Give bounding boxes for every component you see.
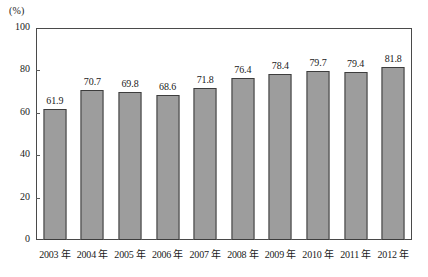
bar-value-label: 71.8	[197, 74, 214, 85]
bar-slot: 68.6	[149, 28, 187, 240]
bar[interactable]	[118, 92, 141, 240]
bar-value-label: 61.9	[46, 95, 63, 106]
bar[interactable]	[382, 67, 405, 240]
bar-slot: 70.7	[74, 28, 112, 240]
bar-slot: 78.4	[262, 28, 300, 240]
bar-value-label: 69.8	[121, 78, 138, 89]
bar-slot: 69.8	[111, 28, 149, 240]
bar-slot: 79.4	[337, 28, 375, 240]
bar-chart: (%) 020406080100 61.970.769.868.671.876.…	[0, 0, 428, 277]
bar[interactable]	[156, 95, 179, 240]
x-axis-tick-label: 2006 年	[149, 248, 187, 261]
bar-value-label: 79.7	[309, 57, 326, 68]
x-axis-tick-label: 2005 年	[111, 248, 149, 261]
x-axis-tick-label: 2012 年	[374, 248, 412, 261]
bar[interactable]	[344, 72, 367, 240]
y-axis-tick-label: 60	[20, 106, 30, 118]
x-axis-tick-label: 2004 年	[74, 248, 112, 261]
bar-slot: 71.8	[186, 28, 224, 240]
bar[interactable]	[81, 90, 104, 240]
bar[interactable]	[43, 109, 66, 240]
x-axis-tick-label: 2010 年	[299, 248, 337, 261]
bar-value-label: 79.4	[347, 58, 364, 69]
bar-value-label: 81.8	[385, 53, 402, 64]
y-axis-tick-label: 20	[20, 191, 30, 203]
y-axis-tick-label: 100	[15, 21, 30, 33]
x-axis-tick-label: 2007 年	[186, 248, 224, 261]
x-axis: 2003 年2004 年2005 年2006 年2007 年2008 年2009…	[36, 248, 412, 268]
bar-slot: 81.8	[374, 28, 412, 240]
y-axis-tick-label: 80	[20, 63, 30, 75]
bar-value-label: 68.6	[159, 81, 176, 92]
bar-value-label: 70.7	[84, 76, 101, 87]
x-axis-tick-label: 2008 年	[224, 248, 262, 261]
bar-slot: 76.4	[224, 28, 262, 240]
y-axis-tick-label: 0	[25, 233, 30, 245]
bar-slot: 79.7	[299, 28, 337, 240]
bar-slot: 61.9	[36, 28, 74, 240]
y-axis-tick-label: 40	[20, 148, 30, 160]
y-axis-unit-label: (%)	[9, 5, 25, 17]
bar[interactable]	[269, 74, 292, 240]
x-axis-tick-label: 2011 年	[337, 248, 375, 261]
bars-layer: 61.970.769.868.671.876.478.479.779.481.8	[36, 28, 412, 240]
bar[interactable]	[306, 71, 329, 240]
bar[interactable]	[231, 78, 254, 240]
bar-value-label: 76.4	[234, 64, 251, 75]
x-axis-tick-label: 2009 年	[262, 248, 300, 261]
bar-value-label: 78.4	[272, 60, 289, 71]
x-axis-tick-label: 2003 年	[36, 248, 74, 261]
bar[interactable]	[194, 88, 217, 240]
